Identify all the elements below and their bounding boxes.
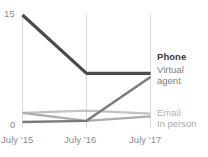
legend-label-phone: Phone <box>157 52 186 63</box>
line-chart: 15 0 July '15 July '16 July '17 Phone Vi… <box>0 0 208 157</box>
x-axis-tick-label-july-16: July '16 <box>64 134 96 145</box>
x-axis-tick-label-july-15: July '15 <box>1 134 33 145</box>
y-axis-min-tick-label: 0 <box>10 119 15 130</box>
legend-label-in-person: In person <box>157 119 197 130</box>
x-axis-tick-label-july-17: July '17 <box>129 134 161 145</box>
y-axis-max-tick-label: 15 <box>4 8 15 19</box>
legend-label-virtual-agent: Virtual agent <box>157 65 205 86</box>
legend-label-email: Email <box>157 108 181 119</box>
